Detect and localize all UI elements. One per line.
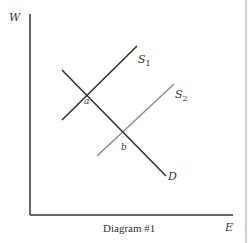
s1-label: S1 bbox=[138, 53, 151, 68]
s2-label: S2 bbox=[175, 88, 188, 103]
point-a-label: a bbox=[84, 96, 89, 106]
demand-curve-d bbox=[62, 70, 166, 176]
supply-demand-diagram: W E S1 S2 D a b Diagram #1 bbox=[0, 0, 251, 243]
point-b-label: b bbox=[121, 142, 127, 152]
diagram-caption: Diagram #1 bbox=[103, 222, 155, 234]
x-axis-label: E bbox=[224, 221, 233, 234]
y-axis-label: W bbox=[9, 11, 22, 24]
d-label: D bbox=[167, 170, 177, 183]
